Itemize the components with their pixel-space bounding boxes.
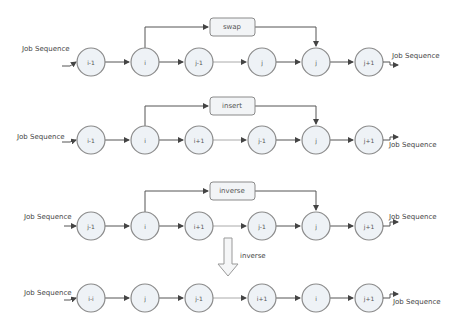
svg-text:j+1: j+1 [363,137,375,145]
op-connector-out [255,191,316,210]
node: i [131,212,159,240]
svg-text:i-1: i-1 [87,59,95,66]
svg-text:j: j [314,223,317,231]
svg-text:swap: swap [223,23,242,31]
node: j [248,48,276,76]
node: i [131,126,159,154]
transition-arrow: inverse [218,238,266,276]
node: j [131,284,159,312]
node: j-1 [185,48,213,76]
svg-text:i-1: i-1 [87,137,95,144]
node: j [302,48,330,76]
svg-text:j: j [260,59,263,67]
operation-box-inverse: inverse [210,182,255,200]
input-label: Job Sequence [23,213,72,221]
op-connector-out [255,27,316,46]
node: j+1 [355,126,383,154]
node: i-i [77,284,105,312]
node: i [131,48,159,76]
node: i [302,284,330,312]
svg-text:i+1: i+1 [257,295,268,302]
output-arrow [383,62,398,65]
output-arrow [383,137,398,140]
svg-text:j-1: j-1 [257,137,266,145]
svg-text:j: j [314,59,317,67]
node: i+1 [248,284,276,312]
op-connector-in [145,191,208,212]
output-label: Job Sequence [392,298,441,306]
svg-text:j+1: j+1 [363,59,375,67]
row-inverse: Job Sequence inverse j-1 i i+1 j-1 j j+1… [23,182,437,240]
node: j [302,212,330,240]
output-label: Job Sequence [391,52,440,60]
op-connector-out [255,106,316,124]
svg-text:i-i: i-i [88,295,94,302]
svg-text:j+1: j+1 [363,295,375,303]
input-label: Job Sequence [23,289,72,297]
output-label: Job Sequence [388,141,437,149]
down-arrow-icon [218,238,238,276]
svg-text:j-1: j-1 [86,223,95,231]
node: j-1 [185,284,213,312]
row-insert: Job Sequence insert i-1 i i+1 j-1 j j+1 … [16,97,437,154]
svg-text:i+1: i+1 [194,223,205,230]
node: j-1 [248,126,276,154]
node: i-1 [77,48,105,76]
output-label: Job Sequence [388,213,437,221]
input-arrow [64,298,76,300]
node: j+1 [355,212,383,240]
diagram-canvas: Job Sequence swap i-1 i j-1 j j j+1 Job … [0,0,462,326]
svg-text:j: j [314,137,317,145]
input-label: Job Sequence [16,133,65,141]
svg-text:j: j [143,295,146,303]
svg-text:j-1: j-1 [194,59,203,67]
input-arrow [62,62,76,66]
node: j+1 [355,48,383,76]
svg-text:j-1: j-1 [194,295,203,303]
op-connector-in [145,27,208,48]
operation-box-insert: insert [210,97,255,115]
svg-text:inverse: inverse [219,187,245,195]
svg-text:j-1: j-1 [257,223,266,231]
transition-label: inverse [240,252,266,260]
node: j-1 [77,212,105,240]
row-result: Job Sequence i-i j j-1 i+1 i j+1 Job Seq… [23,284,441,312]
operation-box-swap: swap [210,18,255,36]
input-label: Job Sequence [21,45,70,53]
row-swap: Job Sequence swap i-1 i j-1 j j j+1 Job … [21,18,440,76]
node: i+1 [185,126,213,154]
svg-text:j+1: j+1 [363,223,375,231]
node: j+1 [355,284,383,312]
output-arrow [383,222,398,226]
svg-text:i+1: i+1 [194,137,205,144]
node: i+1 [185,212,213,240]
node: i-1 [77,126,105,154]
op-connector-in [145,106,208,126]
svg-text:insert: insert [222,102,242,110]
node: j [302,126,330,154]
node: j-1 [248,212,276,240]
